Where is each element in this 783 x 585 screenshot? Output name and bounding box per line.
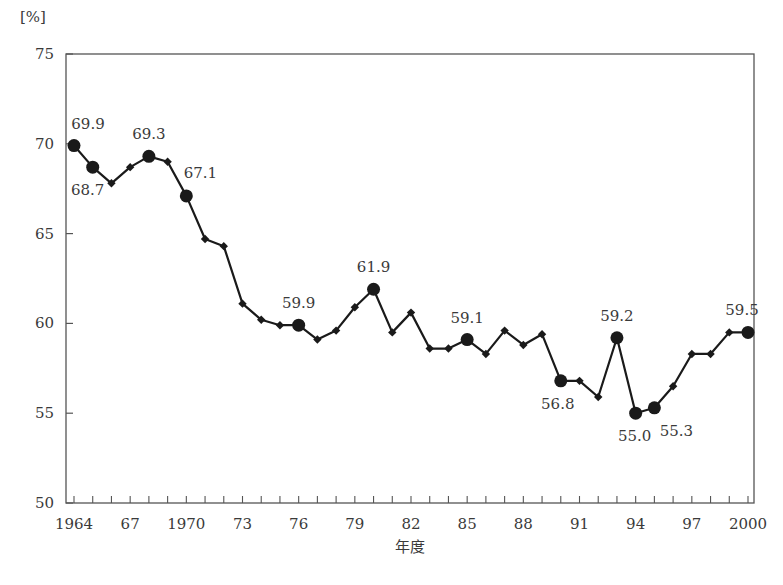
data-label: 67.1 [184, 164, 217, 182]
circle-marker [142, 150, 155, 163]
data-labels: 69.968.769.367.159.961.959.156.859.255.0… [71, 115, 759, 446]
circle-marker [68, 139, 81, 152]
x-tick-label: 85 [458, 515, 477, 533]
y-tick-label: 55 [35, 404, 54, 422]
circle-marker [610, 331, 623, 344]
data-label: 59.2 [600, 307, 633, 325]
circle-marker [629, 407, 642, 420]
x-axis: 19646719707376798285889194972000 [55, 496, 767, 533]
y-tick-label: 75 [35, 45, 54, 63]
x-tick-label: 91 [570, 515, 589, 533]
x-tick-label: 1970 [167, 515, 205, 533]
diamond-marker [276, 321, 284, 329]
circle-marker [742, 326, 755, 339]
data-label: 56.8 [541, 395, 574, 413]
x-tick-label: 73 [233, 515, 252, 533]
y-axis: 505560657075 [35, 45, 73, 512]
x-tick-label: 2000 [729, 515, 767, 533]
line-chart: 505560657075 196467197073767982858891949… [0, 0, 783, 585]
y-tick-label: 70 [35, 135, 54, 153]
x-tick-label: 79 [345, 515, 364, 533]
data-label: 69.3 [132, 125, 165, 143]
diamond-marker [163, 158, 171, 166]
diamond-marker [220, 242, 228, 250]
series-line [74, 146, 748, 414]
circle-marker [367, 283, 380, 296]
data-label: 59.1 [450, 309, 483, 327]
diamond-marker [444, 344, 452, 352]
series-polyline [74, 146, 748, 414]
x-tick-label: 97 [682, 515, 701, 533]
diamond-marker [426, 344, 434, 352]
data-label: 68.7 [71, 181, 104, 199]
circle-marker [86, 161, 99, 174]
x-axis-title: 年度 [395, 538, 425, 556]
x-tick-label: 76 [289, 515, 308, 533]
data-label: 61.9 [357, 258, 390, 276]
data-label: 59.9 [282, 294, 315, 312]
circle-marker [292, 319, 305, 332]
data-label: 59.5 [725, 301, 758, 319]
circle-marker [648, 401, 661, 414]
diamond-marker [201, 235, 209, 243]
y-tick-label: 65 [35, 225, 54, 243]
circle-marker [461, 333, 474, 346]
circle-marker [554, 374, 567, 387]
y-tick-label: 50 [35, 494, 54, 512]
y-axis-unit-label: [%] [20, 8, 46, 26]
x-tick-label: 67 [121, 515, 140, 533]
x-tick-label: 88 [514, 515, 533, 533]
y-tick-label: 60 [35, 314, 54, 332]
x-tick-label: 1964 [55, 515, 93, 533]
data-label: 55.3 [660, 422, 693, 440]
data-markers [68, 139, 755, 420]
x-tick-label: 82 [401, 515, 420, 533]
data-label: 69.9 [71, 115, 104, 133]
circle-marker [180, 189, 193, 202]
data-label: 55.0 [618, 427, 651, 445]
x-tick-label: 94 [626, 515, 645, 533]
